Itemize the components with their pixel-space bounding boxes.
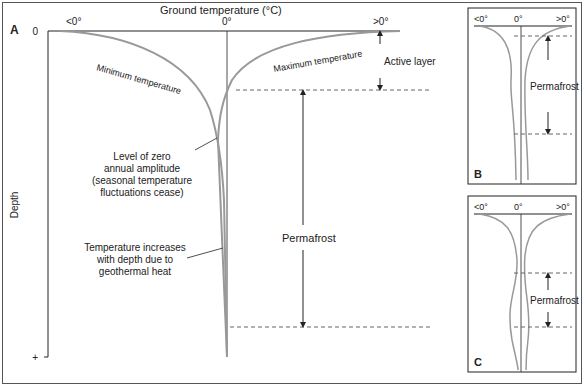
svg-text:>0°: >0° bbox=[556, 14, 570, 24]
svg-text:Temperature increases: Temperature increases bbox=[84, 242, 186, 253]
max-temp-label: Maximum temperature bbox=[273, 48, 363, 73]
panel-a: A Ground temperature (°C) <0° 0° >0° 0 +… bbox=[9, 4, 436, 363]
zero-amplitude-label: Level of zero annual amplitude (seasonal… bbox=[92, 151, 192, 198]
panel-c: <0° 0° >0° Permafrost C bbox=[468, 196, 579, 372]
svg-text:annual amplitude: annual amplitude bbox=[104, 163, 181, 174]
geothermal-label: Temperature increases with depth due to … bbox=[84, 242, 186, 277]
svg-text:geothermal heat: geothermal heat bbox=[99, 266, 171, 277]
y-tick-plus: + bbox=[32, 352, 38, 363]
svg-text:0°: 0° bbox=[514, 14, 523, 24]
x-tick-below-zero: <0° bbox=[66, 16, 81, 27]
permafrost-diagram: A Ground temperature (°C) <0° 0° >0° 0 +… bbox=[0, 0, 586, 388]
y-tick-zero: 0 bbox=[32, 26, 38, 37]
x-tick-above-zero: >0° bbox=[373, 16, 388, 27]
svg-text:<0°: <0° bbox=[474, 14, 488, 24]
svg-text:B: B bbox=[474, 168, 482, 180]
svg-text:Permafrost: Permafrost bbox=[530, 295, 579, 306]
min-temp-label: Minimum temperature bbox=[95, 62, 182, 96]
y-axis-title: Depth bbox=[9, 192, 20, 219]
x-tick-zero: 0° bbox=[222, 16, 232, 27]
svg-text:C: C bbox=[474, 356, 482, 368]
svg-text:>0°: >0° bbox=[556, 202, 570, 212]
svg-text:0°: 0° bbox=[514, 202, 523, 212]
svg-text:Permafrost: Permafrost bbox=[530, 81, 579, 92]
svg-text:Level of zero: Level of zero bbox=[113, 151, 171, 162]
permafrost-label: Permafrost bbox=[282, 232, 336, 244]
panel-a-label: A bbox=[10, 23, 19, 37]
svg-text:with depth due to: with depth due to bbox=[96, 254, 174, 265]
svg-text:<0°: <0° bbox=[474, 202, 488, 212]
active-layer-label: Active layer bbox=[384, 56, 436, 67]
svg-text:fluctuations cease): fluctuations cease) bbox=[100, 187, 183, 198]
svg-text:(seasonal temperature: (seasonal temperature bbox=[92, 175, 192, 186]
panel-b: <0° 0° >0° Permafrost B bbox=[468, 8, 579, 184]
x-axis-title: Ground temperature (°C) bbox=[160, 4, 282, 16]
